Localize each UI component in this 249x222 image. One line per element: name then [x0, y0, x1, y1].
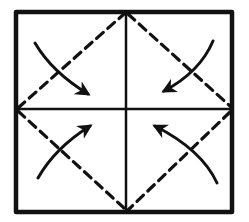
- fold-line-top-left: [18, 14, 124, 108]
- fold-diagram: [0, 0, 249, 222]
- fold-line-top-right: [128, 14, 230, 106]
- paper-square: [16, 12, 232, 212]
- fold-line-bottom-right: [128, 112, 230, 210]
- fold-line-bottom-left: [18, 111, 124, 208]
